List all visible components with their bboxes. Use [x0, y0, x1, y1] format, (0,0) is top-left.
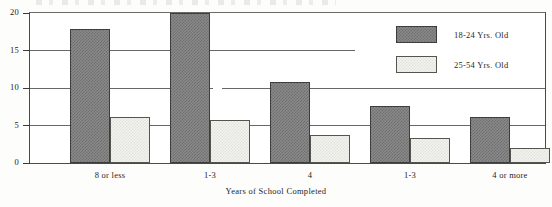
- bar-chart: 20151050 8 or less1-341-34 or more Years…: [0, 0, 552, 207]
- x-axis-title: Years of School Completed: [0, 186, 552, 196]
- scan-artifact: [36, 0, 336, 5]
- y-axis-tick-label: 15: [10, 46, 19, 55]
- legend-item-label: 25-54 Yrs. Old: [454, 60, 508, 70]
- x-axis-tick-label: 1-3: [160, 170, 260, 180]
- y-axis-tick: [23, 50, 30, 51]
- chart-legend: 18-24 Yrs. Old 25-54 Yrs. Old: [396, 24, 544, 84]
- bar: [510, 148, 550, 163]
- y-axis-tick: [23, 163, 30, 164]
- bar: [110, 117, 150, 164]
- y-axis-tick-label: 10: [10, 83, 19, 92]
- x-axis-tick-label: 4 or more: [460, 170, 552, 180]
- legend-item-label: 18-24 Yrs. Old: [454, 30, 508, 40]
- y-axis-tick-label: 0: [15, 158, 19, 167]
- bar: [70, 29, 110, 163]
- bar: [410, 138, 450, 164]
- bar: [170, 13, 210, 163]
- legend-swatch-icon: [396, 56, 437, 73]
- y-axis-tick-label: 5: [15, 121, 19, 130]
- x-axis-tick-label: 8 or less: [60, 170, 160, 180]
- y-axis-tick: [23, 125, 30, 126]
- bar: [370, 106, 410, 163]
- y-axis-tick: [23, 13, 30, 14]
- y-axis-tick-label: 20: [10, 8, 19, 17]
- x-axis-tick-label: 1-3: [360, 170, 460, 180]
- y-axis-tick: [23, 88, 30, 89]
- legend-item: 18-24 Yrs. Old: [396, 24, 544, 45]
- bar: [470, 117, 510, 163]
- legend-item: 25-54 Yrs. Old: [396, 54, 544, 75]
- bar: [270, 82, 310, 163]
- bar: [210, 120, 250, 164]
- legend-swatch-icon: [396, 26, 437, 43]
- x-axis-tick-label: 4: [260, 170, 360, 180]
- bar: [310, 135, 350, 163]
